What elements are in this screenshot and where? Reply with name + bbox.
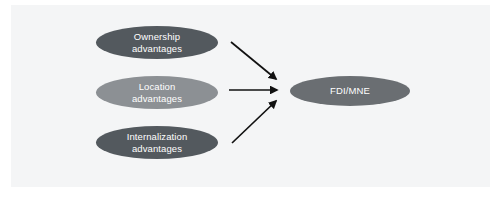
ownership-to-fdi-arrow: [231, 42, 276, 79]
node-location-label: Locationadvantages: [96, 81, 218, 103]
node-ownership-label: Ownershipadvantages: [96, 31, 218, 53]
arrow-layer: [0, 0, 504, 208]
node-fdi-mne[interactable]: FDI/MNE: [290, 76, 410, 106]
diagram-canvas: Ownershipadvantages Locationadvantages I…: [0, 0, 504, 208]
node-internalization-label: Internalizationadvantages: [96, 131, 218, 153]
node-internalization-advantages[interactable]: Internalizationadvantages: [96, 126, 218, 159]
internalization-to-fdi-arrow: [232, 101, 276, 143]
node-ownership-advantages[interactable]: Ownershipadvantages: [96, 26, 218, 59]
node-fdi-mne-label: FDI/MNE: [290, 85, 410, 96]
node-location-advantages[interactable]: Locationadvantages: [96, 76, 218, 109]
